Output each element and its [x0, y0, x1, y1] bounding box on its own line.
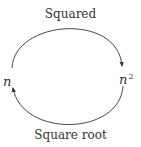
node-n-squared-base: n [119, 72, 127, 87]
squared-arrow [12, 29, 122, 68]
node-n: n [3, 74, 11, 89]
node-n-squared: n2 [119, 72, 133, 87]
square-root-arrow [13, 86, 123, 125]
squared-label: Squared [0, 7, 141, 21]
square-root-label: Square root [0, 128, 141, 142]
exponent: 2 [128, 72, 133, 81]
node-n-base: n [3, 74, 11, 89]
